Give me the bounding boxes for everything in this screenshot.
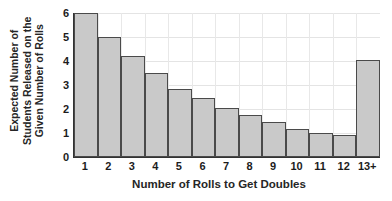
x-axis-tick-label: 4 bbox=[144, 159, 168, 173]
y-axis-title: Expected Number of Students Released on … bbox=[0, 0, 54, 162]
y-axis-title-line-1: Expected Number of bbox=[8, 17, 21, 145]
y-axis-tick-label: 4 bbox=[63, 56, 69, 67]
y-axis-tick-labels: 0123456 bbox=[54, 13, 71, 157]
bar bbox=[98, 37, 122, 157]
x-axis-tick-label: 13+ bbox=[355, 159, 379, 173]
bar bbox=[168, 89, 192, 157]
bar bbox=[262, 122, 286, 157]
x-axis-tick-label: 10 bbox=[285, 159, 309, 173]
bar bbox=[239, 115, 263, 157]
x-axis-title: Number of Rolls to Get Doubles bbox=[54, 178, 384, 190]
x-axis-tick-label: 8 bbox=[238, 159, 262, 173]
x-axis-tick-label: 12 bbox=[332, 159, 356, 173]
x-axis-tick-label: 9 bbox=[261, 159, 285, 173]
y-axis-tick-label: 2 bbox=[63, 104, 69, 115]
y-axis-tick-label: 5 bbox=[63, 32, 69, 43]
bar bbox=[286, 129, 310, 157]
y-axis-tick-label: 3 bbox=[63, 80, 69, 91]
y-axis-title-line-3: Given Number of Rolls bbox=[33, 17, 46, 145]
bar bbox=[145, 73, 169, 157]
bar bbox=[333, 135, 357, 157]
y-axis-tick-label: 1 bbox=[63, 128, 69, 139]
x-axis-tick-label: 11 bbox=[308, 159, 332, 173]
y-axis-tick-label: 0 bbox=[63, 152, 69, 163]
bar bbox=[309, 133, 333, 157]
y-axis-tick-label: 6 bbox=[63, 8, 69, 19]
bar-chart-figure: Expected Number of Students Released on … bbox=[0, 0, 392, 201]
bar bbox=[74, 13, 98, 157]
x-axis-tick-labels: 12345678910111213+ bbox=[73, 159, 379, 175]
x-axis-tick-label: 1 bbox=[73, 159, 97, 173]
x-axis-tick-label: 7 bbox=[214, 159, 238, 173]
y-axis-title-line-2: Students Released on the bbox=[21, 17, 34, 145]
bar bbox=[356, 60, 380, 157]
bar bbox=[121, 56, 145, 157]
x-axis-tick-label: 6 bbox=[191, 159, 215, 173]
x-axis-tick-label: 2 bbox=[97, 159, 121, 173]
plot-area bbox=[73, 13, 380, 158]
x-axis-tick-label: 5 bbox=[167, 159, 191, 173]
bar bbox=[192, 98, 216, 157]
bar bbox=[215, 108, 239, 157]
bar-series bbox=[74, 13, 380, 157]
x-axis-tick-label: 3 bbox=[120, 159, 144, 173]
